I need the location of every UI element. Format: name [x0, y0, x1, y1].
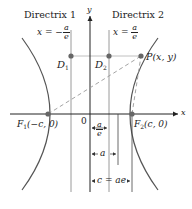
point-F2	[129, 111, 134, 116]
point-D2-label-sub: 2	[103, 64, 107, 71]
directrix-1-eq-lhs: x = −	[37, 27, 63, 37]
y-axis-label: y	[87, 6, 92, 14]
point-F1	[45, 111, 50, 116]
measure-a-label: a	[100, 149, 105, 158]
diagram-canvas	[0, 0, 192, 209]
directrix-2-eq-den: e	[132, 33, 137, 41]
measure-c-label: c = ae	[97, 176, 126, 185]
point-F2-label: F2(c, 0)	[134, 120, 168, 130]
measure-a-over-e-label: ae	[96, 121, 103, 138]
point-D1	[68, 53, 73, 58]
point-D1-label: D1	[57, 60, 69, 71]
point-P-label: P(x, y)	[146, 52, 177, 62]
measure-a-over-e-den: e	[97, 130, 102, 138]
point-D2-label-main: D	[95, 59, 103, 70]
point-F2-label-rest: (c, 0)	[144, 119, 168, 129]
directrix-2-eq-lhs: x =	[113, 27, 131, 37]
dashed-segment-F2-P	[132, 56, 141, 114]
point-D2	[106, 53, 111, 58]
point-D2-label: D2	[95, 60, 107, 71]
origin-label: 0	[81, 117, 87, 126]
point-P	[138, 53, 143, 58]
x-axis-label: x	[181, 109, 186, 117]
point-F1-label: F1(−c, 0)	[17, 120, 58, 130]
directrix-1-equation: x = −ae	[37, 24, 70, 41]
point-F1-label-rest: (−c, 0)	[27, 119, 58, 129]
point-D1-label-main: D	[57, 59, 65, 70]
directrix-2-eq-fraction: ae	[131, 24, 138, 41]
directrix-1-eq-fraction: ae	[63, 24, 70, 41]
directrix-1-eq-den: e	[64, 33, 69, 41]
point-D1-label-sub: 1	[65, 64, 69, 71]
directrix-2-title: Directrix 2	[112, 10, 164, 20]
hyperbola-diagram: Directrix 1 x = −ae Directrix 2 x = ae y…	[0, 0, 192, 209]
directrix-2-equation: x = ae	[113, 24, 138, 41]
directrix-1-title: Directrix 1	[24, 10, 76, 20]
measure-a-over-e-fraction: ae	[96, 121, 103, 138]
